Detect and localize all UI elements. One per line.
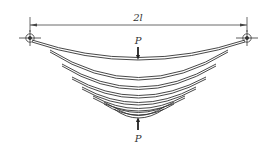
dimension-label: 2l [132, 12, 143, 23]
top-load-label: P [134, 35, 142, 46]
leaf-spring-diagram: 2l [0, 0, 276, 145]
bottom-load-label: P [134, 133, 142, 144]
top-load-arrow [136, 47, 140, 60]
bottom-load-arrow [136, 117, 140, 130]
